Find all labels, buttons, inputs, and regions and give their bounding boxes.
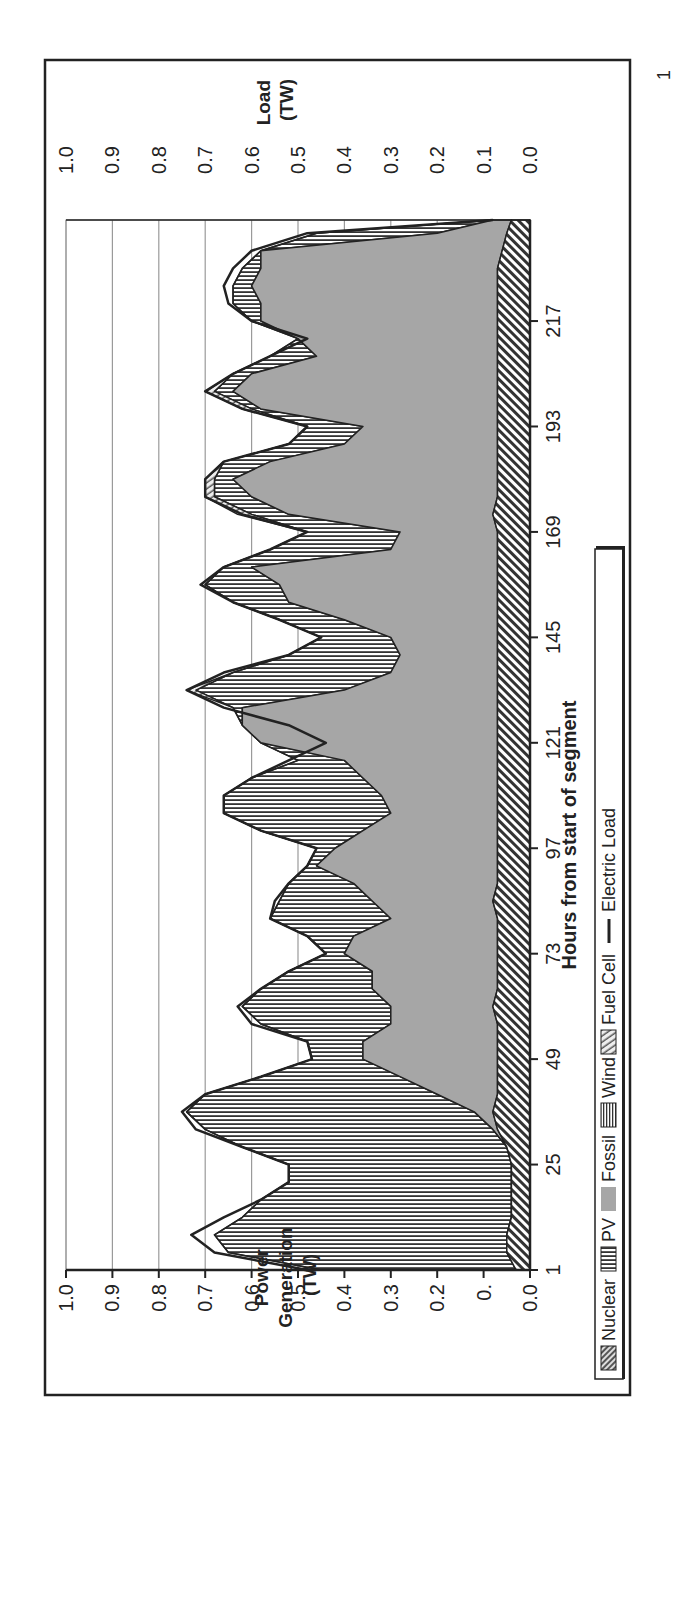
svg-text:Fuel Cell: Fuel Cell	[599, 954, 619, 1025]
right-tick-label: 0.7	[194, 146, 216, 174]
svg-text:Electric Load: Electric Load	[599, 808, 619, 912]
rotated-chart-page: 1.00.90.80.70.60.50.40.30.20.0.01.00.90.…	[0, 0, 677, 1605]
nuclear-swatch	[601, 1346, 616, 1370]
y-tick-label: 0.2	[426, 1284, 448, 1312]
y-tick-label: 0.	[473, 1284, 495, 1301]
right-tick-label: 0.5	[287, 146, 309, 174]
plot-area: 1.00.90.80.70.60.50.40.30.20.0.01.00.90.…	[55, 146, 564, 1312]
x-tick-label: 25	[542, 1153, 564, 1175]
right-tick-label: 0.3	[380, 146, 402, 174]
x-tick-label: 49	[542, 1048, 564, 1070]
svg-text:Nuclear: Nuclear	[599, 1279, 619, 1341]
fossil-swatch	[601, 1187, 616, 1211]
legend-item-nuclear: Nuclear	[599, 1279, 619, 1370]
y-tick-label: 0.0	[519, 1284, 541, 1312]
x-tick-label: 217	[542, 304, 564, 337]
legend: Nuclear PV Fossil Wind Fuel Cell Electri…	[595, 546, 625, 1379]
y-tick-label: 0.8	[148, 1284, 170, 1312]
right-tick-label: 0.0	[519, 146, 541, 174]
fuel-cell-swatch	[601, 1030, 616, 1054]
y-tick-label: 0.3	[380, 1284, 402, 1312]
svg-text:Wind: Wind	[599, 1057, 619, 1098]
right-tick-label: 1.0	[55, 146, 77, 174]
wind-area	[493, 220, 530, 1270]
x-tick-label: 145	[542, 621, 564, 654]
wind-swatch	[601, 1103, 616, 1127]
y-tick-label: 0.7	[194, 1284, 216, 1312]
svg-text:PV: PV	[599, 1218, 619, 1242]
x-tick-label: 193	[542, 410, 564, 443]
right-axis-label: Load (TW)	[253, 75, 297, 126]
legend-item-wind: Wind	[599, 1057, 619, 1127]
legend-item-fuel-cell: Fuel Cell	[599, 954, 619, 1054]
right-tick-label: 0.4	[333, 146, 355, 174]
right-tick-label: 0.8	[148, 146, 170, 174]
x-tick-label: 169	[542, 515, 564, 548]
x-axis-title: Hours from start of segment	[558, 700, 580, 969]
legend-item-fossil: Fossil	[599, 1135, 619, 1211]
right-tick-label: 0.2	[426, 146, 448, 174]
pv-swatch	[601, 1247, 616, 1271]
y-tick-label: 0.4	[333, 1284, 355, 1312]
svg-text:Fossil: Fossil	[599, 1135, 619, 1182]
x-tick-label: 1	[542, 1264, 564, 1275]
chart: 1.00.90.80.70.60.50.40.30.20.0.01.00.90.…	[0, 0, 677, 1605]
y-tick-label: 0.9	[101, 1284, 123, 1312]
y-tick-label: 1.0	[55, 1284, 77, 1312]
right-tick-label: 0.9	[101, 146, 123, 174]
page-number: 1	[654, 70, 674, 80]
right-tick-label: 0.1	[473, 146, 495, 174]
right-tick-label: 0.6	[241, 146, 263, 174]
